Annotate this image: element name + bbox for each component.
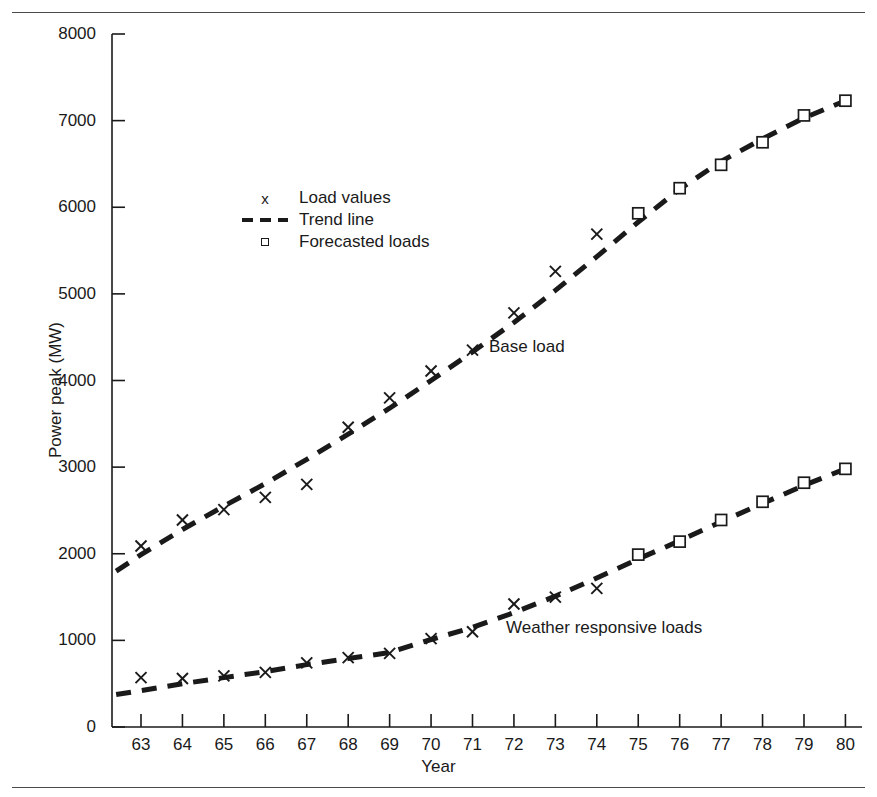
- legend-item-trend-line: Trend line: [239, 209, 429, 231]
- x-tick-label: 64: [173, 735, 192, 755]
- annotation-base-load: Base load: [489, 337, 565, 357]
- data-point-square: [840, 95, 851, 106]
- dashed-line-icon: [239, 209, 291, 231]
- x-tick-label: 76: [670, 735, 689, 755]
- x-tick-label: 75: [629, 735, 648, 755]
- data-point-cross: [591, 229, 602, 240]
- plot-area: [0, 0, 877, 797]
- data-point-square: [674, 183, 685, 194]
- data-point-square: [674, 536, 685, 547]
- data-point-cross: [550, 266, 561, 277]
- x-tick-label: 79: [795, 735, 814, 755]
- cross-marker-icon: x: [239, 187, 291, 209]
- data-point-cross: [260, 667, 271, 678]
- data-point-cross: [136, 540, 147, 551]
- y-tick-label: 4000: [24, 371, 96, 391]
- x-tick-label: 69: [380, 735, 399, 755]
- y-tick-label: 5000: [24, 284, 96, 304]
- legend-label: Load values: [291, 188, 391, 208]
- data-point-square: [757, 137, 768, 148]
- x-tick-label: 74: [587, 735, 606, 755]
- data-point-cross: [467, 626, 478, 637]
- chart-figure: Power peak (MW) Year 0100020003000400050…: [0, 0, 877, 797]
- data-point-cross: [591, 583, 602, 594]
- x-tick-label: 67: [297, 735, 316, 755]
- x-tick-label: 72: [504, 735, 523, 755]
- legend-item-forecasted-loads: Forecasted loads: [239, 231, 429, 253]
- data-point-square: [798, 477, 809, 488]
- annotation-weather-loads: Weather responsive loads: [506, 618, 702, 638]
- data-point-square: [716, 159, 727, 170]
- data-point-square: [716, 514, 727, 525]
- x-tick-label: 78: [753, 735, 772, 755]
- data-point-square: [757, 496, 768, 507]
- y-tick-label: 3000: [24, 457, 96, 477]
- data-point-cross: [177, 514, 188, 525]
- data-point-cross: [508, 307, 519, 318]
- data-point-square: [840, 463, 851, 474]
- legend-item-load-values: x Load values: [239, 187, 429, 209]
- data-point-cross: [508, 598, 519, 609]
- y-tick-label: 8000: [24, 24, 96, 44]
- data-point-cross: [260, 492, 271, 503]
- y-tick-label: 2000: [24, 544, 96, 564]
- data-point-square: [633, 208, 644, 219]
- x-tick-label: 77: [712, 735, 731, 755]
- x-tick-label: 70: [422, 735, 441, 755]
- x-tick-label: 71: [463, 735, 482, 755]
- y-tick-label: 6000: [24, 197, 96, 217]
- x-tick-label: 65: [214, 735, 233, 755]
- legend-label: Forecasted loads: [291, 232, 429, 252]
- data-point-cross: [218, 504, 229, 515]
- data-point-square: [798, 110, 809, 121]
- x-tick-label: 66: [256, 735, 275, 755]
- data-point-cross: [384, 392, 395, 403]
- data-point-cross: [426, 365, 437, 376]
- data-point-cross: [177, 673, 188, 684]
- data-point-cross: [343, 422, 354, 433]
- legend-label: Trend line: [291, 210, 374, 230]
- x-tick-label: 63: [132, 735, 151, 755]
- data-point-square: [633, 549, 644, 560]
- y-tick-label: 1000: [24, 630, 96, 650]
- data-point-cross: [136, 672, 147, 683]
- x-tick-label: 73: [546, 735, 565, 755]
- y-tick-label: 7000: [24, 111, 96, 131]
- chart-legend: x Load values Trend line Forecasted load…: [239, 187, 429, 253]
- x-tick-label: 68: [339, 735, 358, 755]
- y-tick-label: 0: [24, 717, 96, 737]
- square-marker-icon: [239, 231, 291, 253]
- x-axis-label: Year: [0, 757, 877, 777]
- x-tick-label: 80: [836, 735, 855, 755]
- data-point-cross: [301, 479, 312, 490]
- series-group: [116, 95, 851, 694]
